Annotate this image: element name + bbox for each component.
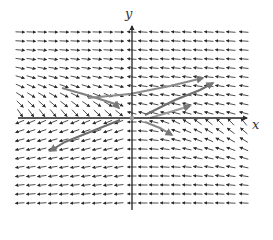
field-arrow	[194, 76, 203, 77]
field-arrow	[150, 68, 159, 69]
field-arrow	[82, 85, 91, 88]
field-arrow	[161, 158, 170, 159]
field-arrow	[227, 194, 236, 195]
field-arrow	[93, 67, 102, 68]
field-arrow	[240, 94, 249, 95]
field-arrow	[183, 167, 192, 168]
field-arrow	[93, 175, 102, 176]
field-arrow	[60, 93, 68, 97]
field-arrow	[150, 32, 159, 33]
field-arrow	[183, 120, 191, 125]
field-arrow	[27, 130, 36, 133]
field-arrow	[206, 119, 213, 125]
field-arrow	[104, 85, 113, 87]
field-arrow	[38, 166, 47, 167]
field-arrow	[60, 85, 68, 88]
field-arrow	[27, 175, 36, 176]
field-arrow	[27, 194, 36, 195]
field-arrow	[205, 138, 213, 141]
field-arrow	[150, 103, 159, 105]
field-arrow	[71, 101, 78, 106]
field-arrow	[93, 102, 101, 107]
field-arrow	[227, 175, 236, 176]
field-arrow	[115, 175, 124, 176]
field-arrow	[27, 120, 35, 123]
field-arrow	[115, 139, 124, 141]
field-arrow	[16, 185, 25, 186]
field-arrow	[93, 120, 101, 123]
field-arrow	[82, 194, 91, 195]
field-arrow	[60, 59, 69, 60]
field-arrow	[161, 139, 170, 141]
field-arrow	[172, 76, 181, 77]
field-arrow	[16, 130, 25, 133]
field-arrow	[115, 110, 122, 116]
field-arrow	[115, 68, 124, 69]
field-arrow	[104, 130, 113, 133]
field-arrow	[38, 76, 47, 78]
field-arrow	[49, 185, 58, 186]
field-arrow	[93, 59, 102, 60]
field-arrow	[240, 138, 248, 143]
field-arrow	[240, 41, 249, 42]
field-arrow	[205, 148, 214, 151]
field-arrow	[115, 59, 124, 60]
field-arrow	[240, 147, 248, 151]
field-arrow	[194, 166, 203, 167]
field-arrow	[49, 76, 58, 78]
field-arrow	[216, 175, 225, 176]
field-arrow	[49, 67, 58, 68]
field-arrow	[104, 148, 113, 150]
field-arrow	[115, 203, 124, 204]
field-arrow	[50, 109, 56, 116]
field-arrow	[240, 185, 249, 186]
field-arrow	[183, 148, 192, 150]
field-arrow	[139, 85, 148, 86]
field-arrow	[240, 68, 249, 69]
field-arrow	[216, 148, 225, 151]
field-arrow	[183, 139, 192, 142]
field-arrow	[172, 68, 181, 69]
field-arrow	[227, 94, 236, 95]
field-arrow	[183, 76, 192, 77]
trajectory-curve	[145, 122, 172, 135]
field-arrow	[228, 119, 234, 126]
field-arrow	[183, 41, 192, 42]
field-arrow	[71, 194, 80, 195]
field-arrow	[71, 166, 80, 167]
field-arrow	[172, 103, 181, 105]
field-arrow	[172, 50, 181, 51]
field-arrow	[61, 110, 67, 117]
field-arrow	[216, 59, 225, 60]
field-arrow	[27, 148, 36, 150]
field-arrow	[60, 194, 69, 195]
field-arrow	[39, 109, 44, 116]
field-arrow	[240, 166, 249, 168]
field-arrow	[105, 110, 112, 116]
field-arrow	[216, 32, 225, 33]
field-arrow	[240, 85, 249, 86]
field-arrow	[172, 148, 181, 149]
field-arrow	[38, 139, 47, 141]
field-arrow	[227, 41, 236, 42]
field-arrow	[17, 109, 22, 116]
field-arrow	[60, 67, 69, 68]
field-arrow	[27, 76, 36, 78]
field-arrow	[82, 166, 91, 167]
field-arrow	[27, 203, 36, 204]
field-arrow	[194, 59, 203, 60]
field-arrow	[227, 128, 234, 133]
field-arrow	[183, 157, 192, 158]
field-arrow	[71, 148, 80, 150]
field-arrow	[216, 157, 225, 159]
field-arrow	[216, 194, 225, 195]
field-arrow	[93, 194, 102, 195]
field-arrow	[216, 85, 225, 86]
field-arrow	[60, 175, 69, 176]
field-arrow	[227, 76, 236, 77]
field-arrow	[49, 84, 57, 87]
field-arrow	[71, 85, 80, 88]
field-arrow	[71, 67, 80, 68]
field-arrow	[28, 101, 35, 107]
field-arrow	[71, 93, 79, 97]
